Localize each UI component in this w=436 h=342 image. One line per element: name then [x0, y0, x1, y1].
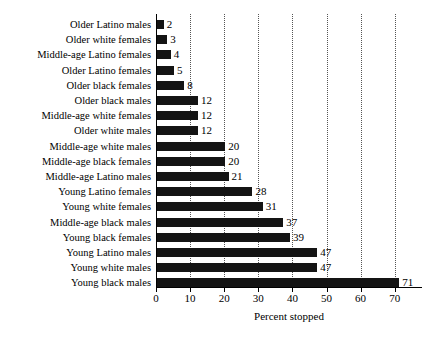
bar-value-10: 21 — [232, 171, 243, 182]
bar-8 — [157, 142, 225, 151]
bar-row: Older black females8 — [0, 80, 436, 95]
category-label-7: Older white males — [0, 125, 151, 136]
category-label-16: Young white males — [0, 262, 151, 273]
bar-value-5: 12 — [201, 95, 212, 106]
bar-row: Middle-age Latino males21 — [0, 171, 436, 186]
category-label-14: Young black females — [0, 232, 151, 243]
bar-value-12: 31 — [266, 201, 277, 212]
x-axis-title: Percent stopped — [156, 310, 422, 322]
bar-value-17: 71 — [402, 277, 413, 288]
bar-10 — [157, 172, 229, 181]
bar-row: Young black males71 — [0, 277, 436, 292]
category-label-3: Older Latino females — [0, 65, 151, 76]
bar-value-2: 4 — [174, 49, 180, 60]
bar-2 — [157, 50, 171, 59]
category-label-13: Middle-age black males — [0, 217, 151, 228]
bar-row: Young Latino males47 — [0, 247, 436, 262]
bar-row: Young Latino females28 — [0, 186, 436, 201]
bar-row: Older white males12 — [0, 125, 436, 140]
category-label-1: Older white females — [0, 34, 151, 45]
bar-value-1: 3 — [170, 34, 176, 45]
category-label-5: Older black males — [0, 95, 151, 106]
category-label-12: Young white females — [0, 201, 151, 212]
bar-12 — [157, 202, 263, 211]
bar-value-15: 47 — [320, 247, 331, 258]
bar-1 — [157, 35, 167, 44]
bar-row: Middle-age white males20 — [0, 141, 436, 156]
bar-value-13: 37 — [286, 217, 297, 228]
bar-value-14: 39 — [293, 232, 304, 243]
bar-0 — [157, 20, 164, 29]
bar-15 — [157, 248, 317, 257]
bar-6 — [157, 111, 198, 120]
bar-value-9: 20 — [228, 156, 239, 167]
category-label-2: Middle-age Latino females — [0, 49, 151, 60]
category-label-8: Middle-age white males — [0, 141, 151, 152]
bar-row: Older Latino females5 — [0, 65, 436, 80]
category-label-4: Older black females — [0, 80, 151, 91]
bar-16 — [157, 263, 317, 272]
bar-value-6: 12 — [201, 110, 212, 121]
bar-value-3: 5 — [177, 65, 183, 76]
bar-13 — [157, 218, 283, 227]
bar-value-8: 20 — [228, 141, 239, 152]
bar-11 — [157, 187, 252, 196]
x-tick-label-70: 70 — [375, 292, 415, 304]
bar-row: Older Latino males2 — [0, 19, 436, 34]
bar-row: Young black females39 — [0, 232, 436, 247]
bar-5 — [157, 96, 198, 105]
category-label-6: Middle-age white females — [0, 110, 151, 121]
bar-value-0: 2 — [167, 19, 173, 30]
bar-row: Older white females3 — [0, 34, 436, 49]
bar-7 — [157, 126, 198, 135]
bar-4 — [157, 81, 184, 90]
category-label-17: Young black males — [0, 277, 151, 288]
bar-row: Young white males47 — [0, 262, 436, 277]
bar-row: Middle-age black males37 — [0, 217, 436, 232]
bar-value-16: 47 — [320, 262, 331, 273]
category-label-0: Older Latino males — [0, 19, 151, 30]
bar-17 — [157, 278, 399, 287]
category-label-15: Young Latino males — [0, 247, 151, 258]
bar-row: Middle-age black females20 — [0, 156, 436, 171]
bar-value-7: 12 — [201, 125, 212, 136]
category-label-10: Middle-age Latino males — [0, 171, 151, 182]
bar-chart: 010203040506070 Older Latino males2Older… — [0, 0, 436, 342]
bar-3 — [157, 66, 174, 75]
bar-row: Young white females31 — [0, 201, 436, 216]
category-label-11: Young Latino females — [0, 186, 151, 197]
category-label-9: Middle-age black females — [0, 156, 151, 167]
bar-9 — [157, 157, 225, 166]
bar-row: Older black males12 — [0, 95, 436, 110]
bar-value-11: 28 — [255, 186, 266, 197]
bar-14 — [157, 233, 290, 242]
bar-value-4: 8 — [187, 80, 193, 91]
bar-row: Middle-age white females12 — [0, 110, 436, 125]
bar-row: Middle-age Latino females4 — [0, 49, 436, 64]
